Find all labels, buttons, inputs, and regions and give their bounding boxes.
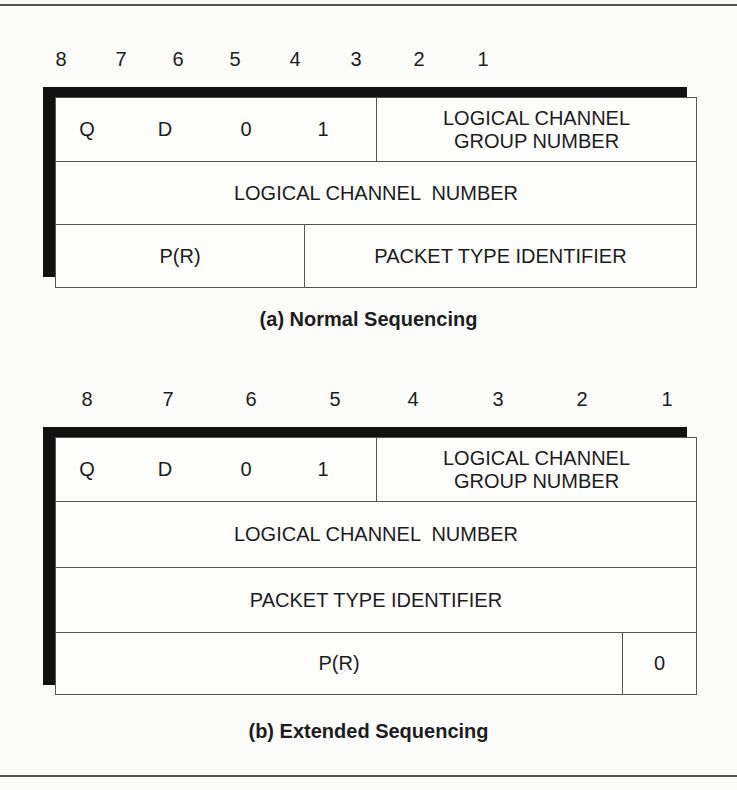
logical-channel-group-number: LOGICAL CHANNEL GROUP NUMBER xyxy=(376,438,696,501)
q-bit: Q xyxy=(56,98,118,161)
bit-5: 5 xyxy=(320,384,350,414)
caption-normal-sequencing: (a) Normal Sequencing xyxy=(0,306,737,332)
packet-header-normal: Q D 0 1 LOGICAL CHANNEL GROUP NUMBER LOG… xyxy=(55,97,697,288)
logical-channel-group-number: LOGICAL CHANNEL GROUP NUMBER xyxy=(376,98,696,161)
bit-6: 6 xyxy=(236,384,266,414)
bit-1-value: 0 xyxy=(622,633,696,694)
bit-4: 4 xyxy=(398,384,428,414)
row-pr-bit1: P(R) 0 xyxy=(56,632,696,694)
bit-position-header-b: 8 7 6 5 4 3 2 1 xyxy=(0,384,737,414)
bit-1: 1 xyxy=(652,384,682,414)
row-pr-pti: P(R) PACKET TYPE IDENTIFIER xyxy=(56,224,696,287)
bit-4: 4 xyxy=(280,44,310,74)
row-qd-group: Q D 0 1 LOGICAL CHANNEL GROUP NUMBER xyxy=(56,438,696,501)
group-label-line1: LOGICAL CHANNEL xyxy=(443,107,630,130)
row-logical-channel-number: LOGICAL CHANNEL NUMBER xyxy=(56,501,696,567)
bit-5: 5 xyxy=(220,44,250,74)
row-logical-channel-number: LOGICAL CHANNEL NUMBER xyxy=(56,161,696,224)
group-label-line2: GROUP NUMBER xyxy=(443,470,630,493)
d-bit: D xyxy=(134,438,196,501)
bit-7: 7 xyxy=(153,384,183,414)
bit-5-value: 1 xyxy=(298,98,348,161)
bit-5-value: 1 xyxy=(298,438,348,501)
bit-6-value: 0 xyxy=(221,438,271,501)
row-qd-group: Q D 0 1 LOGICAL CHANNEL GROUP NUMBER xyxy=(56,98,696,161)
group-label-line1: LOGICAL CHANNEL xyxy=(443,447,630,470)
d-bit: D xyxy=(134,98,196,161)
packet-type-identifier: PACKET TYPE IDENTIFIER xyxy=(304,225,696,287)
packet-header-extended: Q D 0 1 LOGICAL CHANNEL GROUP NUMBER LOG… xyxy=(55,437,697,695)
group-label-line2: GROUP NUMBER xyxy=(443,130,630,153)
bit-2: 2 xyxy=(567,384,597,414)
pr-field: P(R) xyxy=(56,633,622,694)
bit-3: 3 xyxy=(341,44,371,74)
bit-6-value: 0 xyxy=(221,98,271,161)
bit-6: 6 xyxy=(163,44,193,74)
logical-channel-number: LOGICAL CHANNEL NUMBER xyxy=(56,162,696,224)
logical-channel-number: LOGICAL CHANNEL NUMBER xyxy=(56,502,696,567)
bit-7: 7 xyxy=(106,44,136,74)
top-rule xyxy=(0,4,737,6)
bit-8: 8 xyxy=(46,44,76,74)
shadow-left-b xyxy=(43,427,55,685)
bottom-rule xyxy=(0,775,737,777)
bit-2: 2 xyxy=(404,44,434,74)
bit-3: 3 xyxy=(483,384,513,414)
pr-field: P(R) xyxy=(56,225,304,287)
shadow-left-a xyxy=(43,87,55,277)
packet-type-identifier: PACKET TYPE IDENTIFIER xyxy=(56,568,696,632)
bit-1: 1 xyxy=(468,44,498,74)
caption-extended-sequencing: (b) Extended Sequencing xyxy=(0,718,737,744)
q-bit: Q xyxy=(56,438,118,501)
bit-8: 8 xyxy=(72,384,102,414)
bit-position-header-a: 8 7 6 5 4 3 2 1 xyxy=(0,44,737,74)
row-packet-type-identifier: PACKET TYPE IDENTIFIER xyxy=(56,567,696,632)
